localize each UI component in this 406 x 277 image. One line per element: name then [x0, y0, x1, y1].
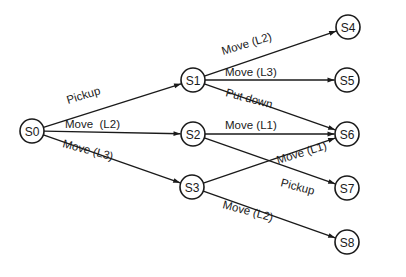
edge-label-s0-s3: Move (L3) [61, 137, 114, 162]
edge-label-s2-s6: Move (L1) [225, 119, 277, 131]
edge-label-s1-s5: Move (L3) [225, 66, 277, 78]
edge-label-s0-s2: Move (L2) [65, 118, 120, 130]
node-label: S3 [185, 181, 200, 195]
state-diagram: PickupMove (L2)Move (L3)Move (L2)Move (L… [0, 0, 406, 277]
node-label: S2 [186, 128, 201, 142]
state-node-s5: S5 [335, 68, 359, 92]
state-node-s7: S7 [335, 176, 359, 200]
edge-label-s3-s8: Move (L2) [221, 198, 274, 223]
state-node-s8: S8 [335, 230, 359, 254]
state-node-s6: S6 [335, 122, 359, 146]
edge-label-s1-s6: Put down [224, 86, 273, 110]
edge-label-s2-s7: Pickup [279, 176, 315, 197]
state-node-s2: S2 [181, 122, 205, 146]
node-label: S6 [340, 128, 355, 142]
edge-s0-s2 [44, 131, 181, 134]
state-node-s4: S4 [336, 15, 360, 39]
state-node-s1: S1 [181, 68, 205, 92]
node-label: S7 [340, 182, 355, 196]
node-label: S1 [186, 74, 201, 88]
node-label: S0 [25, 125, 40, 139]
node-label: S4 [341, 21, 356, 35]
state-node-s3: S3 [180, 175, 204, 199]
edge-label-s3-s6: Move (L1) [275, 139, 328, 166]
edge-label-s1-s4: Move (L2) [220, 30, 273, 57]
node-label: S8 [340, 236, 355, 250]
node-label: S5 [340, 74, 355, 88]
edge-label-s0-s1: Pickup [65, 84, 102, 106]
state-node-s0: S0 [20, 119, 44, 143]
